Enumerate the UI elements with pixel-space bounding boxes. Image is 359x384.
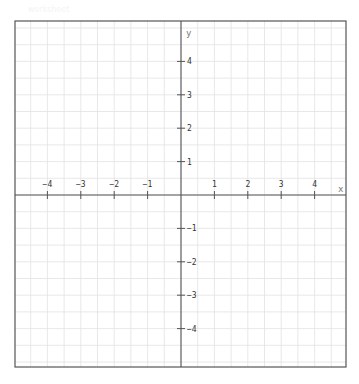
coordinate-plane: worksheet −4−3−2−11234 4321−1−2−3−4 x y — [0, 0, 359, 384]
x-tick-label: 4 — [312, 180, 317, 189]
x-tick-label: 2 — [245, 180, 250, 189]
x-axis-ticks: −4−3−2−11234 — [43, 180, 318, 199]
y-tick-label: 3 — [187, 91, 192, 100]
y-tick-label: −3 — [187, 291, 197, 300]
x-tick-label: −1 — [143, 180, 153, 189]
y-tick-label: −2 — [187, 258, 197, 267]
x-tick-label: 3 — [279, 180, 284, 189]
y-tick-label: 1 — [187, 158, 192, 167]
x-tick-label: −4 — [43, 180, 53, 189]
x-tick-label: −3 — [76, 180, 86, 189]
watermark: worksheet — [28, 5, 70, 14]
y-tick-label: 4 — [187, 57, 192, 66]
y-tick-label: −1 — [187, 224, 197, 233]
y-tick-label: −4 — [187, 325, 197, 334]
x-tick-label: −2 — [109, 180, 119, 189]
y-axis-label: y — [186, 28, 192, 38]
y-tick-label: 2 — [187, 124, 192, 133]
x-tick-label: 1 — [212, 180, 217, 189]
x-axis-label: x — [338, 184, 344, 194]
